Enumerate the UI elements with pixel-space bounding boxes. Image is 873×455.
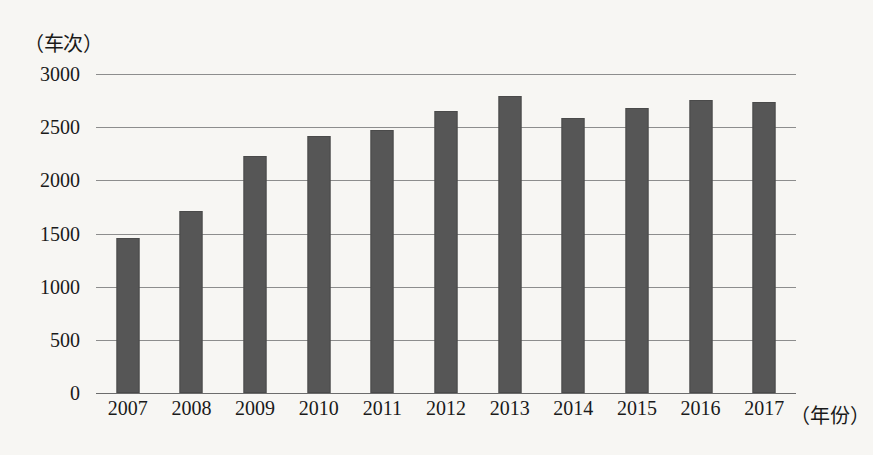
bar-slot <box>287 74 351 393</box>
bar[interactable] <box>244 156 267 393</box>
x-tick-label: 2016 <box>669 398 733 418</box>
x-tick-label: 2015 <box>605 398 669 418</box>
y-tick-label: 1000 <box>0 277 88 297</box>
x-tick-label: 2014 <box>541 398 605 418</box>
y-tick-label: 500 <box>0 330 88 350</box>
axis-baseline <box>96 393 796 394</box>
bar[interactable] <box>562 118 585 393</box>
bar-slot <box>223 74 287 393</box>
y-axis-tick-labels: 050010001500200025003000 <box>0 74 88 393</box>
bar-chart: （车次） 050010001500200025003000 2007200820… <box>0 0 873 455</box>
bar-slot <box>605 74 669 393</box>
y-tick-label: 0 <box>0 383 88 403</box>
bar-slot <box>541 74 605 393</box>
bar-slot <box>669 74 733 393</box>
x-tick-label: 2017 <box>732 398 796 418</box>
bar[interactable] <box>434 111 457 393</box>
plot-area <box>96 74 796 393</box>
bar-slot <box>732 74 796 393</box>
x-tick-label: 2008 <box>160 398 224 418</box>
x-axis-unit-label: （年份） <box>790 400 870 429</box>
x-axis-tick-labels: 2007200820092010201120122013201420152016… <box>96 398 796 428</box>
bar-slot <box>414 74 478 393</box>
x-tick-label: 2009 <box>223 398 287 418</box>
x-tick-label: 2012 <box>414 398 478 418</box>
bar-slot <box>96 74 160 393</box>
x-tick-label: 2013 <box>478 398 542 418</box>
x-tick-label: 2011 <box>351 398 415 418</box>
bar[interactable] <box>307 136 330 393</box>
bar[interactable] <box>753 102 776 393</box>
bar[interactable] <box>498 96 521 393</box>
y-axis-unit-label: （车次） <box>24 28 102 57</box>
y-tick-label: 3000 <box>0 64 88 84</box>
x-tick-label: 2007 <box>96 398 160 418</box>
bar[interactable] <box>689 100 712 393</box>
bar[interactable] <box>180 211 203 393</box>
bar[interactable] <box>625 108 648 393</box>
bar-slot <box>351 74 415 393</box>
y-tick-label: 2500 <box>0 117 88 137</box>
bar[interactable] <box>371 130 394 393</box>
bar-series <box>96 74 796 393</box>
bar-slot <box>160 74 224 393</box>
bar-slot <box>478 74 542 393</box>
bar[interactable] <box>116 238 139 393</box>
y-tick-label: 1500 <box>0 224 88 244</box>
y-tick-label: 2000 <box>0 170 88 190</box>
x-tick-label: 2010 <box>287 398 351 418</box>
